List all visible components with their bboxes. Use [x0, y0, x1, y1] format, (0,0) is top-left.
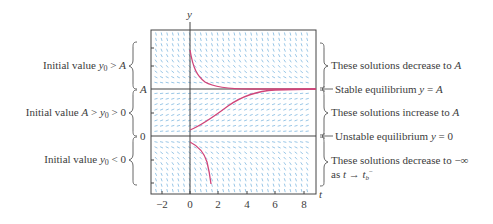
- left-label-between: Initial value A > y0 > 0: [26, 106, 127, 120]
- right-label-stable: Stable equilibrium y = A: [335, 83, 443, 95]
- right-label-decrease-to-A: These solutions decrease to A: [331, 59, 461, 71]
- brace-right-above-A: [320, 43, 328, 88]
- left-label-below-0: Initial value y0 < 0: [44, 153, 126, 167]
- y-label-zero: 0: [140, 130, 146, 142]
- right-label-as-t-to-tb: as t → tb−: [331, 168, 373, 182]
- slope-field: [154, 32, 308, 192]
- right-braces: [320, 43, 328, 186]
- direction-field-figure: y t −2 0 2 4 6 8 A 0 Initial value y0 > …: [0, 0, 493, 224]
- brace-right-between: [320, 90, 328, 135]
- brace-right-below-0: [320, 137, 328, 186]
- svg-text:2: 2: [215, 198, 221, 210]
- brace-left-above-A: [129, 42, 137, 89]
- x-tick-labels: −2 0 2 4 6 8: [156, 198, 307, 210]
- svg-text:6: 6: [272, 198, 278, 210]
- x-axis-label: t: [319, 188, 323, 200]
- right-label-unstable: Unstable equilibrium y = 0: [335, 130, 454, 142]
- svg-text:−2: −2: [156, 198, 168, 210]
- y-label-A: A: [139, 83, 147, 95]
- right-label-increase-to-A: These solutions increase to A: [331, 106, 460, 118]
- svg-text:0: 0: [187, 198, 193, 210]
- left-label-above-A: Initial value y0 > A: [43, 59, 126, 73]
- brace-left-between: [129, 90, 137, 136]
- left-braces: [129, 42, 137, 185]
- solution-curves: [190, 50, 316, 184]
- right-label-decrease-to-neg-inf: These solutions decrease to −∞: [331, 154, 469, 166]
- y-axis-label: y: [186, 8, 192, 20]
- svg-text:4: 4: [244, 198, 250, 210]
- svg-text:8: 8: [301, 198, 307, 210]
- brace-left-below-0: [129, 137, 137, 185]
